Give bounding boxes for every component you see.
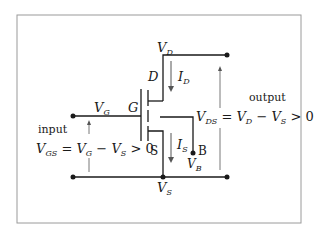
vgs-equation: VGS = VG − VS > 0 [36,141,154,158]
input-bottom-terminal [71,175,76,180]
current-arrows [168,61,174,163]
is-label: IS [176,137,188,154]
body-letter: B [198,144,207,158]
body-terminal [191,151,196,156]
mosfet-diagram: VD D ID VG G S IS B VB VS input VGS = VG… [0,0,315,238]
id-label: ID [177,69,190,86]
source-node [161,175,166,180]
output-bottom-terminal [225,175,230,180]
vs-label: VS [157,180,172,197]
output-label: output [249,91,286,104]
vg-label: VG [94,100,110,117]
gate-letter: G [128,100,138,115]
drain-letter: D [147,69,159,84]
vb-label: VB [187,157,202,173]
vds-equation: VDS = VD − VS > 0 [196,109,314,126]
ground-wire [71,175,230,180]
vd-label: VD [157,40,173,57]
input-top-terminal [71,114,76,119]
input-label: input [38,123,68,136]
output-top-terminal [225,53,230,58]
